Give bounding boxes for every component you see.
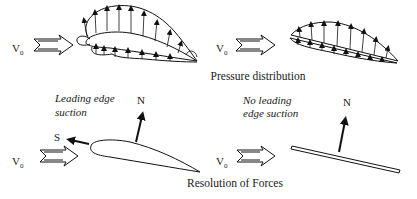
freestream-label: V0 xyxy=(216,42,228,57)
resolution-of-forces-caption: Resolution of Forces xyxy=(187,177,283,189)
pressure-distribution-caption: Pressure distribution xyxy=(211,70,306,82)
suction-force-arrow-icon xyxy=(71,140,89,144)
airfoil-force-diagram: V0 xyxy=(0,0,417,199)
no-leading-edge-suction-note: No leading xyxy=(242,94,292,106)
pressure-airfoil-panel: V0 xyxy=(12,6,197,62)
airfoil-outline xyxy=(91,140,200,172)
freestream-arrow-icon xyxy=(34,35,73,55)
no-leading-edge-suction-note-2: edge suction xyxy=(243,107,299,119)
suction-force-label: S xyxy=(54,131,60,143)
freestream-label: V0 xyxy=(216,155,228,170)
flat-plate xyxy=(291,146,400,173)
forces-airfoil-panel: Leading edge suction N S V0 xyxy=(12,92,200,172)
flat-plate xyxy=(290,35,398,63)
freestream-arrow-icon xyxy=(237,146,275,166)
normal-force-arrow-icon xyxy=(339,121,345,152)
freestream-label: V0 xyxy=(12,42,24,57)
leading-edge-lobe xyxy=(77,36,90,45)
leading-edge-suction-note: Leading edge xyxy=(54,92,115,104)
pressure-plate-panel: V0 xyxy=(216,22,398,63)
normal-force-label: N xyxy=(343,96,351,108)
normal-force-label: N xyxy=(137,94,145,106)
leading-edge-suction-note-2: suction xyxy=(55,106,87,118)
normal-force-arrow-icon xyxy=(136,116,142,142)
forces-plate-panel: No leading edge suction N V0 xyxy=(216,94,400,173)
freestream-label: V0 xyxy=(12,155,24,170)
freestream-arrow-icon xyxy=(236,35,275,55)
lower-pressure-envelope xyxy=(92,47,197,62)
upper-pressure-arrows xyxy=(84,7,181,53)
freestream-arrow-icon xyxy=(40,146,78,166)
